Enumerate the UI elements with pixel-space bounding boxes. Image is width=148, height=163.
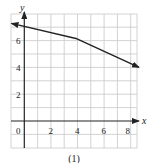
tick-x-6: 6 [102,126,107,136]
tick-x-4: 4 [75,126,80,136]
chart-canvas: y x 0 2 4 6 8 2 4 6 (1) [0,0,148,163]
tick-x-8: 8 [126,126,131,136]
tick-y-4: 4 [16,63,21,73]
grid [11,14,137,148]
tick-y-2: 2 [16,90,21,100]
tick-x-2: 2 [49,126,54,136]
x-axis-label: x [141,115,147,126]
data-line [12,23,140,67]
y-axis-label: y [19,2,25,13]
tick-y-6: 6 [16,36,21,46]
figure-caption: (1) [68,153,80,163]
tick-x-0: 0 [16,126,21,136]
